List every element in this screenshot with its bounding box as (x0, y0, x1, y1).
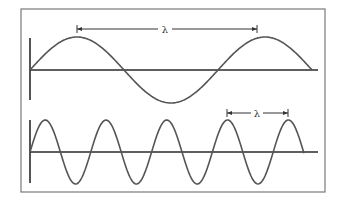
wavelength-diagram: λ λ (0, 0, 344, 203)
wavelength-label: λ (162, 24, 169, 35)
panel-long-wavelength: λ (30, 24, 318, 103)
panel-short-wavelength: λ (30, 108, 318, 184)
wavelength-label: λ (254, 108, 261, 119)
wavelength-marker: λ (77, 24, 257, 35)
wavelength-marker: λ (227, 108, 288, 119)
diagram-frame (21, 9, 325, 192)
